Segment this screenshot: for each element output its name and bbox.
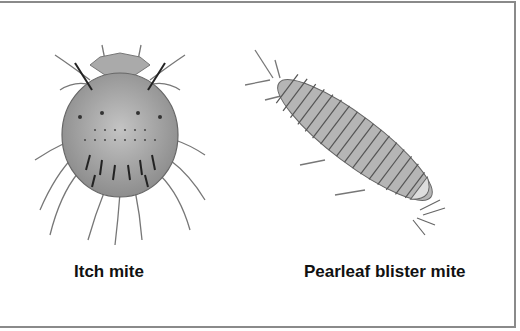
itch-mite-label: Itch mite: [74, 262, 144, 282]
pearleaf-blister-mite-illustration: [245, 40, 475, 250]
pearleaf-blister-mite-label: Pearleaf blister mite: [304, 262, 466, 282]
itch-mite-illustration: [20, 35, 220, 250]
